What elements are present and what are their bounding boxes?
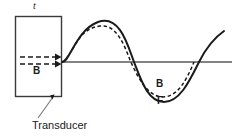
thickness-label: t [33, 1, 36, 11]
transducer-leader-line [38, 95, 55, 118]
wave-f-label: F [157, 96, 163, 106]
transducer-wave-diagram: t B B F Transducer [0, 0, 236, 138]
field-arrow-lower-icon [20, 61, 62, 68]
transducer-label: Transducer [32, 120, 87, 131]
field-arrow-upper-icon [20, 54, 62, 61]
wave-b-label: B [156, 79, 163, 89]
box-field-label: B [33, 66, 40, 76]
